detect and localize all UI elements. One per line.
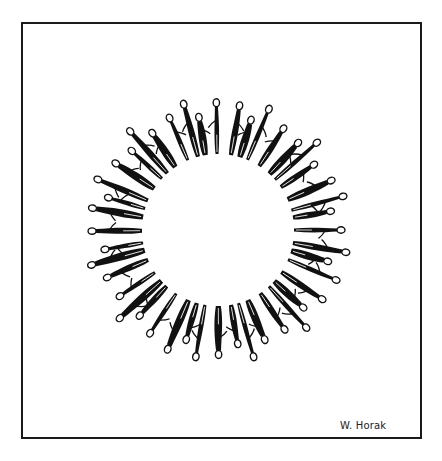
figure — [158, 297, 191, 355]
ring-of-figures — [86, 99, 352, 362]
figure-ring-illustration — [0, 0, 442, 461]
figure — [88, 222, 142, 234]
figure — [175, 100, 202, 159]
figure — [208, 99, 220, 154]
artist-signature: W. Horak — [340, 420, 386, 431]
figure — [294, 227, 345, 239]
figure — [214, 306, 227, 359]
